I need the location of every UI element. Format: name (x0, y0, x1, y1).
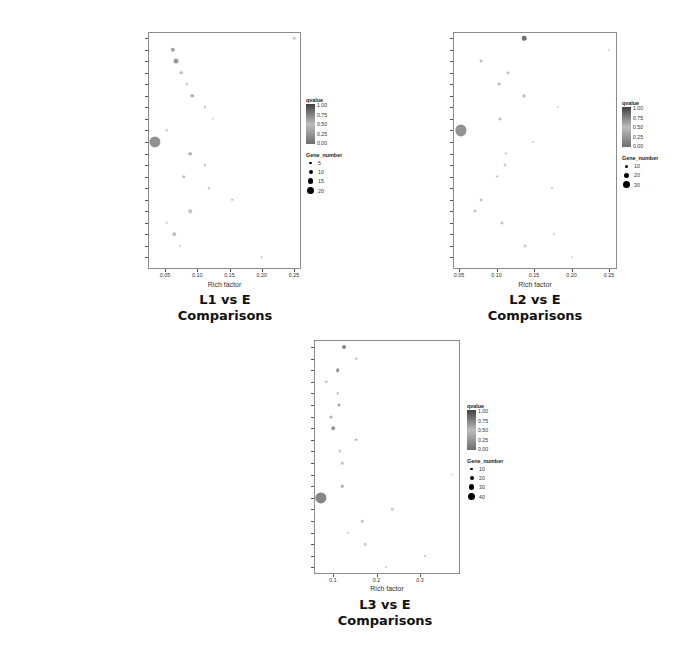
y-axis-tick (450, 50, 453, 51)
caption-line-2: Comparisons (338, 613, 433, 629)
y-axis-tick (145, 223, 148, 224)
gene-number-tick-label: 10 (479, 466, 485, 472)
y-axis-tick (450, 177, 453, 178)
data-point (339, 450, 342, 453)
legend-size-dot (469, 484, 475, 490)
legend-size-dot (624, 173, 629, 178)
gene-number-legend-title: Gene_number (306, 152, 342, 158)
y-axis-tick (145, 154, 148, 155)
chart-caption: L3 vs EComparisons (338, 597, 433, 629)
data-point (424, 555, 426, 557)
x-axis-title: Rich factor (208, 281, 241, 288)
qvalue-tick-label: 0.25 (478, 437, 488, 443)
x-axis-tick-label: 0.15 (224, 272, 235, 278)
qvalue-tick-label: 1.00 (478, 408, 488, 414)
gene-number-tick-label: 15 (318, 178, 324, 184)
y-axis-tick (450, 223, 453, 224)
data-point (391, 508, 394, 511)
gene-number-legend-item: 5 (306, 160, 321, 166)
y-axis-tick (450, 142, 453, 143)
x-axis-tick-label: 0.15 (529, 272, 540, 278)
data-point (355, 439, 358, 442)
data-point (186, 83, 189, 86)
chart-caption: L1 vs EComparisons (178, 292, 273, 324)
qvalue-tick-label: 0.00 (633, 143, 643, 149)
x-axis-tick-label: 0.2 (373, 577, 381, 583)
legend-size-dot (309, 162, 312, 165)
x-axis-tick-label: 0.20 (257, 272, 268, 278)
caption-line-2: Comparisons (178, 308, 273, 324)
y-axis-tick (311, 405, 314, 406)
y-axis-tick (145, 96, 148, 97)
data-point (524, 244, 527, 247)
qvalue-tick-label: 1.00 (317, 102, 327, 108)
y-axis-tick (145, 177, 148, 178)
y-axis-tick (145, 61, 148, 62)
legend-size-dot (308, 178, 314, 184)
data-point (172, 233, 176, 237)
data-point (336, 368, 340, 372)
x-axis-tick-label: 0.10 (491, 272, 502, 278)
data-point (182, 175, 186, 179)
data-point (479, 198, 482, 201)
y-axis-tick (145, 142, 148, 143)
qvalue-tick-label: 0.75 (478, 418, 488, 424)
legend-size-dot (309, 170, 313, 174)
y-axis-tick (450, 234, 453, 235)
plot-panel (314, 340, 460, 574)
data-point (341, 485, 344, 488)
qvalue-tick-label: 0.75 (633, 115, 643, 121)
x-axis-tick-label: 0.3 (416, 577, 424, 583)
data-point (166, 222, 169, 225)
data-point (361, 520, 364, 523)
data-point (499, 117, 502, 120)
y-axis-tick (145, 119, 148, 120)
caption-line-2: Comparisons (488, 308, 583, 324)
gene-number-tick-label: 20 (634, 172, 640, 178)
y-axis-tick (450, 200, 453, 201)
y-axis-tick (450, 246, 453, 247)
plot-panel (148, 32, 301, 269)
data-point (347, 531, 350, 534)
y-axis-tick (311, 498, 314, 499)
data-point (188, 152, 192, 156)
data-point (208, 187, 211, 190)
qvalue-tick-label: 0.00 (317, 140, 327, 146)
qvalue-tick-label: 0.50 (633, 124, 643, 130)
gene-number-legend-item: 10 (306, 169, 324, 175)
y-axis-tick (145, 246, 148, 247)
y-axis-tick (450, 119, 453, 120)
gene-number-legend-item: 10 (622, 163, 640, 169)
y-axis-tick (145, 84, 148, 85)
x-axis-tick-label: 0.05 (160, 272, 171, 278)
gene-number-legend-title: Gene_number (467, 458, 503, 464)
data-point (211, 118, 214, 121)
y-axis-tick (450, 188, 453, 189)
data-point (166, 129, 169, 132)
data-point (293, 37, 296, 40)
gene-number-legend-item: 20 (622, 172, 640, 178)
data-point (341, 462, 344, 465)
data-point (505, 152, 508, 155)
y-axis-tick (145, 200, 148, 201)
y-axis-tick (311, 486, 314, 487)
y-axis-tick (311, 428, 314, 429)
data-point (190, 94, 194, 98)
qvalue-tick-label: 0.50 (478, 427, 488, 433)
data-point (261, 256, 264, 259)
data-point (522, 36, 527, 41)
y-axis-tick (450, 38, 453, 39)
x-axis-tick-label: 0.10 (192, 272, 203, 278)
data-point (503, 164, 506, 167)
data-point (204, 164, 207, 167)
y-axis-tick (311, 393, 314, 394)
data-point (496, 175, 499, 178)
y-axis-tick (450, 84, 453, 85)
x-axis-tick-label: 0.25 (289, 272, 300, 278)
data-point (188, 209, 192, 213)
data-point (337, 392, 340, 395)
y-axis-tick (450, 130, 453, 131)
qvalue-colorbar (622, 107, 631, 147)
y-axis-tick (311, 359, 314, 360)
y-axis-tick (311, 463, 314, 464)
